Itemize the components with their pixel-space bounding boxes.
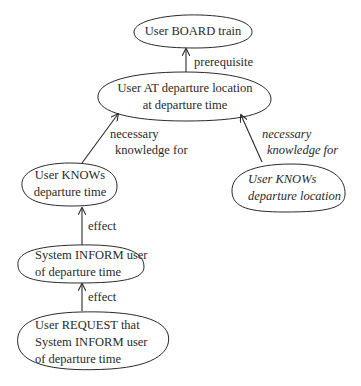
node-knows-location: User KNOWs departure location [248, 171, 344, 205]
edge-label-text: prerequisite [194, 55, 253, 69]
edge-label-text: knowledge for [267, 142, 338, 158]
edge-label-nk-time: necessary knowledge for [110, 126, 188, 158]
node-knows-time: User KNOWs departure time [28, 167, 112, 201]
node-request: User REQUEST that System INFORM user of … [35, 317, 155, 368]
edge-label-text: necessary [262, 126, 338, 142]
node-at: User AT departure location at departure … [110, 80, 260, 114]
node-request-line: User REQUEST that [35, 317, 155, 334]
edge-nk-location-line [241, 115, 262, 162]
node-at-line: User AT departure location [110, 80, 260, 97]
edge-label-effect-request: effect [88, 289, 116, 305]
node-inform-line: of departure time [35, 264, 145, 281]
node-inform: System INFORM user of departure time [35, 247, 145, 281]
edge-label-nk-location: necessary knowledge for [262, 126, 338, 158]
edge-label-text: effect [88, 290, 116, 304]
node-knows-time-line: departure time [28, 184, 112, 201]
edge-label-effect-inform: effect [88, 218, 116, 234]
node-request-line: of departure time [35, 351, 155, 368]
edge-label-text: necessary [110, 126, 188, 142]
node-at-line: at departure time [110, 97, 260, 114]
node-knows-time-line: User KNOWs [28, 167, 112, 184]
edge-label-prerequisite: prerequisite [194, 54, 253, 70]
node-request-line: System INFORM user [35, 334, 155, 351]
edge-label-text: effect [88, 219, 116, 233]
node-inform-line: System INFORM user [35, 247, 145, 264]
node-board-line: User BOARD train [140, 23, 246, 40]
node-board: User BOARD train [140, 23, 246, 40]
edge-label-text: knowledge for [115, 142, 188, 158]
node-knows-location-line: User KNOWs [248, 171, 344, 188]
node-knows-location-line: departure location [248, 188, 344, 205]
